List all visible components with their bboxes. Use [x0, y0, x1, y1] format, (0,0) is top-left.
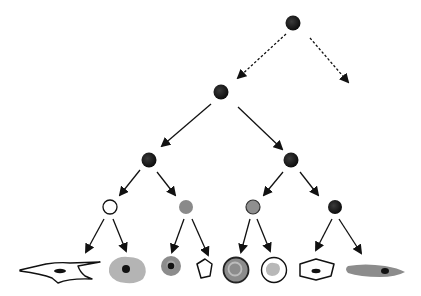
arrow-15	[339, 219, 361, 253]
arrow-3	[238, 107, 282, 149]
dashed-arrow-0	[238, 34, 286, 78]
arrow-9	[113, 219, 126, 251]
arrow-11	[192, 219, 208, 255]
level2-left-node	[142, 153, 157, 168]
level3-white-node	[103, 200, 117, 214]
arrow-2	[162, 104, 211, 146]
level3-gray-node	[179, 200, 193, 214]
cell-small-gray	[161, 256, 181, 276]
cell-lineage-diagram	[0, 0, 421, 296]
arrow-5	[157, 172, 175, 195]
level1-node	[214, 85, 229, 100]
arrow-12	[241, 219, 250, 252]
arrow-13	[257, 219, 270, 251]
arrow-7	[300, 172, 318, 195]
cell-pentagon	[197, 259, 212, 278]
arrow-10	[172, 219, 184, 252]
level3-gray-outlined-node	[246, 200, 260, 214]
nodes	[103, 16, 342, 215]
root-node	[286, 16, 301, 31]
level2-right-node	[284, 153, 299, 168]
cell-ring-light	[262, 258, 287, 283]
cell-types	[20, 256, 405, 283]
cell-ring-dark	[224, 258, 249, 283]
arrow-6	[264, 172, 283, 195]
arrow-4	[120, 170, 140, 195]
cell-elongated	[346, 265, 405, 278]
cell-gray-blob	[109, 257, 146, 283]
arrow-14	[316, 219, 332, 250]
edges	[86, 34, 361, 255]
cell-hexagon	[300, 259, 334, 280]
cell-fibroblast	[20, 262, 100, 283]
level3-dark-node	[328, 200, 342, 214]
arrow-8	[86, 219, 104, 252]
dashed-arrow-1	[310, 38, 348, 82]
